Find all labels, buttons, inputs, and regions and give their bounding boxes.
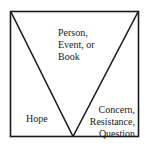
v-diagram: Person, Event, or Book Hope Concern, Res… <box>0 0 148 144</box>
label-line: Question <box>90 128 135 140</box>
label-person-event-book: Person, Event, or Book <box>58 27 95 63</box>
label-line: Event, or <box>58 39 95 51</box>
label-line: Hope <box>26 113 48 125</box>
label-hope: Hope <box>26 113 48 125</box>
label-line: Person, <box>58 27 95 39</box>
label-line: Book <box>58 51 95 63</box>
label-line: Concern, <box>90 104 135 116</box>
label-line: Resistance, <box>90 116 135 128</box>
label-concern-resistance-question: Concern, Resistance, Question <box>90 104 135 140</box>
